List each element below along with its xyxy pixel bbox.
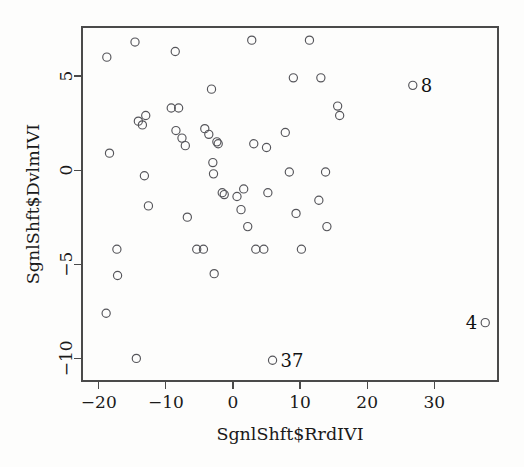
y-tick-label: −5 [56,252,76,277]
x-tick-label: 10 [289,392,311,412]
figure-background [0,0,524,467]
outlier-label-4: 4 [466,312,477,333]
outlier-label-37: 37 [281,350,304,371]
y-tick-label: 5 [56,71,76,82]
plot-canvas: −20−100102030 50−5−10 8437 SgnlShft$RrdI… [0,0,524,467]
x-tick-label: −10 [148,392,184,412]
x-tick-label: 20 [356,392,378,412]
y-tick-label: −10 [56,340,76,376]
x-tick-label: −20 [81,392,117,412]
x-tick-label: 30 [423,392,445,412]
y-axis-title: SgnlShft$DvlmIVI [23,124,43,285]
y-tick-label: 0 [56,165,76,176]
x-axis-title: SgnlShft$RrdIVI [216,424,363,444]
x-tick-label: 0 [228,392,239,412]
scatter-plot-figure: −20−100102030 50−5−10 8437 SgnlShft$RrdI… [0,0,524,467]
outlier-label-8: 8 [421,75,432,96]
